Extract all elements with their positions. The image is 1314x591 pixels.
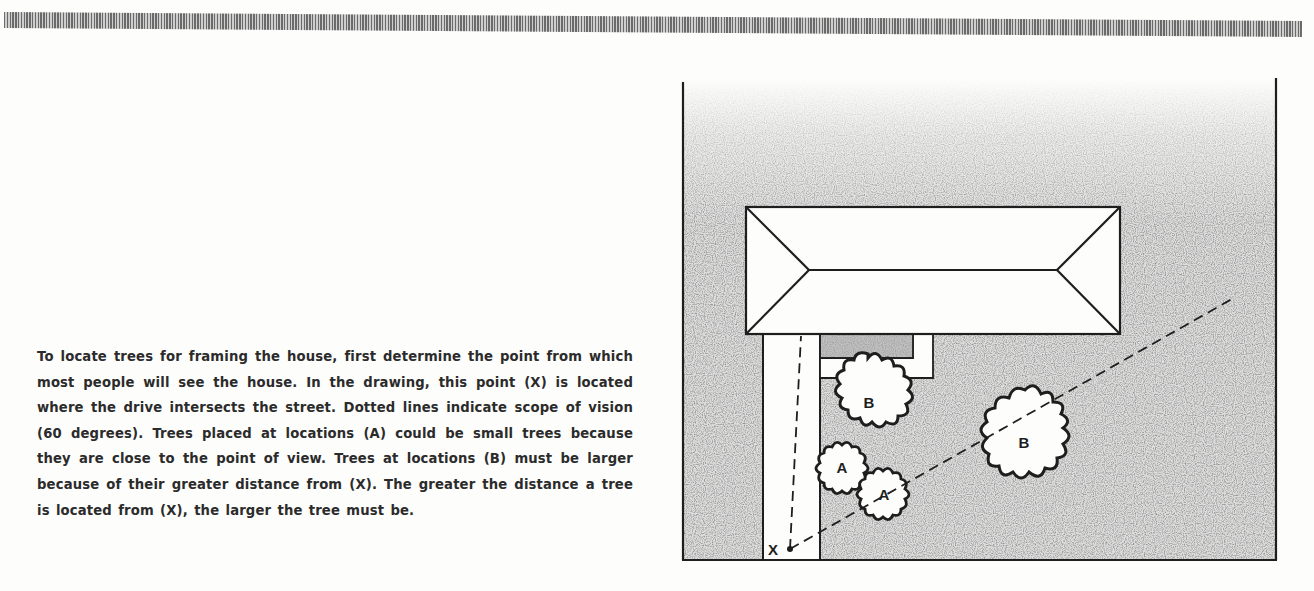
viewpoint-dot xyxy=(787,546,793,552)
viewpoint-label: X xyxy=(768,541,778,558)
tree-label-a: A xyxy=(837,459,848,476)
tree-a-lower: A xyxy=(857,468,909,519)
house-roof-plan xyxy=(746,207,1120,334)
tree-label-b: B xyxy=(1019,434,1030,451)
site-plan-diagram: B A A B X xyxy=(0,0,1314,591)
tree-label-b: B xyxy=(864,394,875,411)
